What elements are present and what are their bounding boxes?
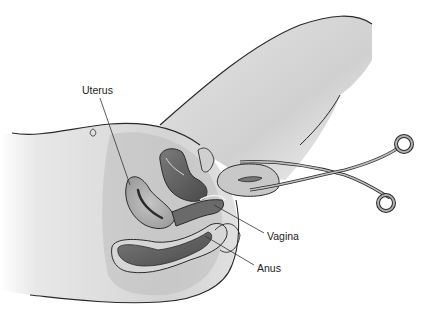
label-anus: Anus [257,263,281,274]
label-uterus: Uterus [82,85,113,96]
illustration [0,0,428,313]
anatomy-diagram: Uterus Vagina Anus [0,0,428,313]
label-vagina: Vagina [267,231,299,242]
